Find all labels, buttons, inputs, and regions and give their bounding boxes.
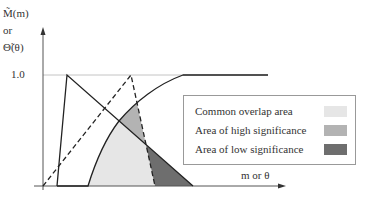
y-axis-arrow-icon [41, 27, 46, 35]
y-axis-label-line-2: or [3, 24, 29, 37]
x-axis-arrow-icon [278, 184, 286, 189]
y-axis-label: M̃(m) or Θ̃(θ) [3, 7, 29, 54]
legend-swatch-high-significance [324, 125, 347, 136]
legend-swatch-low-significance [324, 144, 347, 155]
legend-item-high-significance: Area of high significance [195, 124, 306, 138]
common-overlap-area [88, 121, 155, 186]
legend-label: Area of low significance [195, 143, 303, 155]
legend-item-common-overlap: Common overlap area [195, 105, 293, 119]
legend: Common overlap area Area of high signifi… [183, 95, 356, 165]
x-axis-label: m or θ [241, 169, 270, 181]
legend-item-low-significance: Area of low significance [195, 143, 303, 157]
y-axis-label-line-3: Θ̃(θ) [3, 41, 29, 54]
legend-label: Common overlap area [195, 105, 293, 117]
y-tick-label: 1.0 [11, 68, 25, 80]
legend-label: Area of high significance [195, 124, 306, 136]
legend-swatch-common-overlap [324, 106, 347, 117]
y-axis-label-line-1: M̃(m) [3, 7, 29, 20]
